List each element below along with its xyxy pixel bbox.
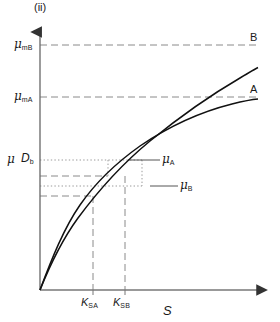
- mu-glyph: μ: [162, 152, 170, 166]
- KSA-subscript: SA: [88, 302, 98, 309]
- y-label-Db: Db: [21, 152, 34, 164]
- y-label-mu-mA: μmA: [14, 90, 33, 102]
- mu-glyph: μ: [14, 37, 22, 51]
- mu-A-subscript: A: [170, 159, 175, 166]
- chart-background: [0, 0, 280, 322]
- mu-mA-subscript: mA: [22, 96, 33, 103]
- curve-value-label-mu-A: μA: [162, 153, 175, 165]
- x-tick-label-KSA: KSA: [81, 297, 98, 308]
- x-axis-title: S: [163, 304, 172, 317]
- curve-label-A: A: [250, 84, 257, 95]
- mu-mB-subscript: mB: [22, 44, 33, 51]
- curve-value-label-mu-B: μB: [180, 179, 193, 191]
- mu-axis-glyph: μ: [7, 152, 15, 166]
- x-tick-label-KSB: KSB: [113, 297, 130, 308]
- Db-subscript: b: [30, 158, 34, 165]
- KSB-subscript: SB: [120, 302, 130, 309]
- mu-glyph: μ: [14, 89, 22, 103]
- y-label-mu-mB: μmB: [14, 38, 33, 50]
- saturation-kinetics-chart: [0, 0, 280, 322]
- curve-label-B: B: [250, 32, 257, 43]
- mu-glyph: μ: [180, 178, 188, 192]
- mu-B-subscript: B: [188, 185, 193, 192]
- y-axis-title-mu: μ: [7, 153, 15, 165]
- D-glyph: D: [21, 151, 30, 165]
- chart-title: (ii): [34, 2, 46, 13]
